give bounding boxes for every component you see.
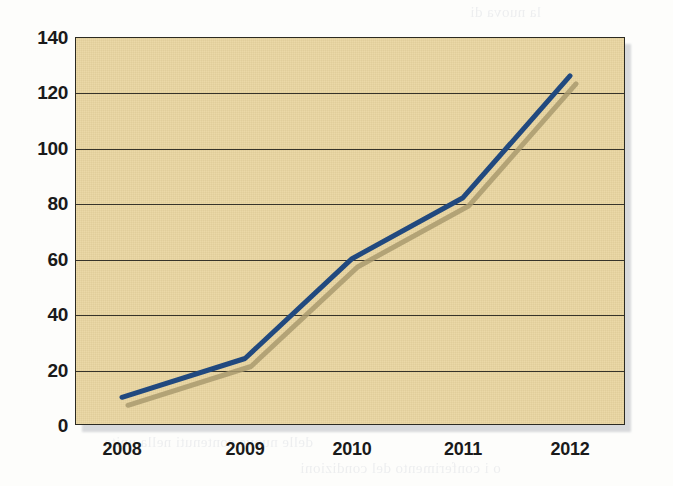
- y-axis-tick-label: 140: [37, 28, 68, 47]
- plot-area: [75, 37, 625, 425]
- y-axis-tick-label: 100: [37, 139, 68, 158]
- y-axis-tick-label: 40: [47, 305, 68, 324]
- x-axis-tick-label: 2008: [103, 440, 142, 458]
- x-axis-tick-label: 2010: [333, 440, 372, 458]
- gridline: [76, 149, 624, 150]
- y-axis-tick-label: 20: [47, 361, 68, 380]
- y-axis-tick-label: 0: [58, 416, 68, 435]
- gridline: [76, 93, 624, 94]
- x-axis-tick-label: 2009: [226, 440, 265, 458]
- gridline: [76, 260, 624, 261]
- gridline: [76, 371, 624, 372]
- gridline: [76, 204, 624, 205]
- y-axis-tick-label: 120: [37, 83, 68, 102]
- line-chart-figure: 020406080100120140 20082009201020112012: [0, 0, 673, 486]
- y-axis-tick-label: 60: [47, 250, 68, 269]
- gridline: [76, 315, 624, 316]
- y-axis-tick-label-group: 020406080100120140: [10, 0, 68, 486]
- x-axis-tick-label: 2012: [551, 440, 590, 458]
- y-axis-tick-label: 80: [47, 194, 68, 213]
- x-axis-tick-label: 2011: [444, 440, 482, 458]
